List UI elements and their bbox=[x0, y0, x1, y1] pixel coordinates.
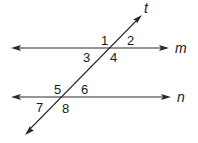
line-label-t: t bbox=[144, 0, 149, 16]
angle-label-1: 1 bbox=[101, 33, 108, 48]
parallel-lines-diagram: 1 2 3 4 5 6 7 8 m n t bbox=[0, 0, 198, 143]
angle-label-8: 8 bbox=[62, 101, 69, 116]
line-label-m: m bbox=[175, 40, 187, 56]
arrowhead-down-icon bbox=[25, 126, 34, 135]
angle-label-3: 3 bbox=[83, 50, 90, 65]
line-n bbox=[11, 94, 171, 100]
line-label-n: n bbox=[177, 89, 185, 105]
angle-label-2: 2 bbox=[127, 33, 134, 48]
angle-label-6: 6 bbox=[81, 82, 88, 97]
angle-label-7: 7 bbox=[36, 100, 43, 115]
angle-label-5: 5 bbox=[54, 82, 61, 97]
transversal-t bbox=[25, 15, 142, 135]
angle-label-4: 4 bbox=[110, 50, 117, 65]
